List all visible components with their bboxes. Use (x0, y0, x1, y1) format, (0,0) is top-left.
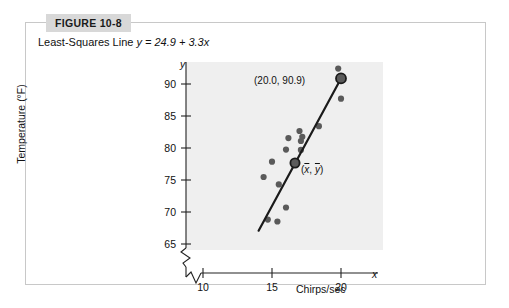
highlight-point-20-90-9 (336, 73, 346, 83)
y-tick-label-75: 75 (152, 174, 176, 186)
plot-svg (0, 0, 509, 308)
x-axis-title: Chirps/sec (296, 283, 346, 295)
least-squares-line (259, 78, 341, 230)
data-point (261, 174, 267, 180)
data-point (338, 96, 344, 102)
data-points (261, 66, 345, 225)
y-tick-label-85: 85 (152, 110, 176, 122)
figure-page: FIGURE 10-8 Least-Squares Line y = 24.9 … (0, 0, 509, 308)
data-point (285, 135, 291, 141)
y-bar-symbol: y (315, 164, 320, 175)
y-axis-symbol: y (180, 58, 185, 70)
scatter-plot: 90 85 80 75 70 65 10 15 20 y x Temperatu… (0, 0, 509, 308)
x-tick-label-10: 10 (191, 281, 215, 293)
y-tick-label-90: 90 (152, 78, 176, 90)
annotation-point-label: (20.0, 90.9) (254, 75, 305, 86)
highlight-point-centroid (290, 158, 299, 167)
data-point (299, 134, 305, 140)
data-point (296, 128, 302, 134)
y-axis-break-icon (181, 248, 190, 267)
x-axis-symbol: x (372, 268, 377, 280)
y-axis-title: Temperature (°F) (15, 69, 27, 179)
annotation-centroid-label: (x, y) (301, 164, 323, 175)
x-tick-label-15: 15 (260, 281, 284, 293)
data-point (276, 181, 282, 187)
data-point (269, 159, 275, 165)
y-tick-label-65: 65 (152, 238, 176, 250)
data-point (283, 204, 289, 210)
data-point (283, 147, 289, 153)
data-point (335, 66, 341, 72)
y-tick-label-80: 80 (152, 142, 176, 154)
x-bar-symbol: x (304, 164, 309, 175)
y-tick-label-70: 70 (152, 206, 176, 218)
data-point (274, 218, 280, 224)
